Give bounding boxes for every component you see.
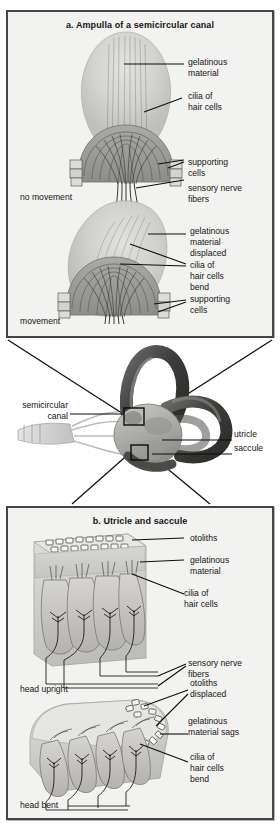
macula-head-bent	[30, 699, 168, 810]
label-otoliths-displaced: otoliths displaced	[190, 678, 272, 700]
label-gelatinous-material-displaced: gelatinous material displaced	[190, 226, 272, 259]
label-supporting-cells-bottom: supporting cells	[190, 294, 272, 316]
panel-utricle-saccule: b. Utricle and saccule	[6, 506, 274, 820]
middle-labyrinth-stage: semicircular canal utricle saccule	[0, 338, 280, 506]
label-supporting-cells-top: supporting cells	[188, 157, 272, 179]
label-cilia-of-hair-cells-bend: cilia of hair cells bend	[190, 260, 272, 293]
macula-head-upright	[34, 534, 158, 688]
vestibular-receptor-figure: a. Ampulla of a semicircular canal	[0, 0, 280, 836]
label-saccule: saccule	[234, 443, 278, 454]
label-cilia-of-hair-cells-bend: cilia of hair cells bend	[190, 752, 272, 785]
label-otoliths-upright: otoliths	[190, 533, 272, 544]
state-label-head-bent: head bent	[20, 800, 58, 810]
bony-labyrinth-artwork	[0, 338, 280, 506]
state-label-no-movement: no movement	[20, 192, 72, 202]
label-utricle: utricle	[234, 429, 278, 440]
label-gelatinous-material-sags: gelatinous material sags	[188, 716, 274, 738]
label-cilia-of-hair-cells-upright: cilia of hair cells	[184, 588, 272, 610]
label-sensory-nerve-fibers-top: sensory nerve fibers	[188, 183, 274, 205]
label-gelatinous-material-upright: gelatinous material	[190, 555, 272, 577]
state-label-movement: movement	[20, 316, 60, 326]
panel-ampulla: a. Ampulla of a semicircular canal	[6, 10, 274, 338]
label-gelatinous-material-top: gelatinous material	[188, 57, 272, 79]
label-sensory-nerve-fibers-upright: sensory nerve fibers	[188, 658, 274, 680]
label-semicircular-canal: semicircular canal	[2, 400, 68, 422]
state-label-head-upright: head upright	[20, 684, 68, 694]
label-cilia-of-hair-cells-top: cilia of hair cells	[188, 91, 272, 113]
